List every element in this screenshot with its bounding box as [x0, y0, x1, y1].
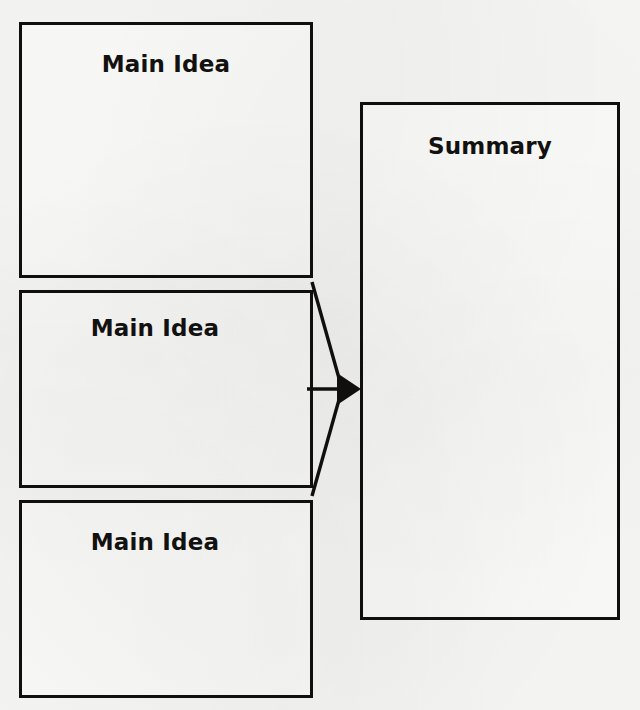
main-idea-box-3-label: Main Idea: [22, 529, 310, 555]
connector-line-from-main-idea-1: [312, 282, 342, 389]
main-idea-box-2[interactable]: Main Idea: [19, 290, 313, 488]
arrowhead-icon: [337, 373, 361, 405]
main-idea-box-3[interactable]: Main Idea: [19, 500, 313, 698]
main-idea-box-1[interactable]: Main Idea: [19, 22, 313, 278]
organizer-canvas: Main Idea Main Idea Main Idea Summary: [0, 0, 640, 710]
connector-line-from-main-idea-3: [312, 389, 342, 496]
summary-box-label: Summary: [363, 133, 617, 159]
main-idea-box-2-label: Main Idea: [22, 315, 310, 341]
summary-box[interactable]: Summary: [360, 102, 620, 620]
main-idea-box-1-label: Main Idea: [22, 51, 310, 77]
